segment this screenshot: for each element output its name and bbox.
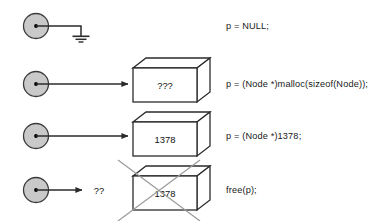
ground-symbol: [73, 36, 90, 42]
code-line-null: p = NULL;: [226, 21, 269, 31]
memory-box-value: 1378: [155, 134, 176, 145]
code-line-address: p = (Node *)1378;: [226, 131, 301, 141]
diagram-canvas: p = NULL; ??? p = (Node *)malloc(sizeof(: [0, 0, 382, 221]
memory-box-freed: 1378: [133, 166, 210, 210]
code-line-free: free(p);: [226, 185, 257, 195]
row-malloc: ??? p = (Node *)malloc(sizeof(Node));: [24, 58, 369, 102]
memory-box-address: 1378: [133, 112, 210, 156]
row-null: p = NULL;: [24, 14, 269, 43]
row-free: ?? 1378 free(p);: [24, 160, 257, 221]
code-line-malloc: p = (Node *)malloc(sizeof(Node));: [226, 79, 368, 89]
memory-box-value: ???: [157, 80, 173, 91]
memory-box-unknown: ???: [133, 58, 210, 102]
row-address: 1378 p = (Node *)1378;: [24, 112, 302, 156]
diagram-root: p = NULL; ??? p = (Node *)malloc(sizeof(: [0, 0, 382, 221]
dangling-pointer-marker: ??: [94, 185, 104, 196]
